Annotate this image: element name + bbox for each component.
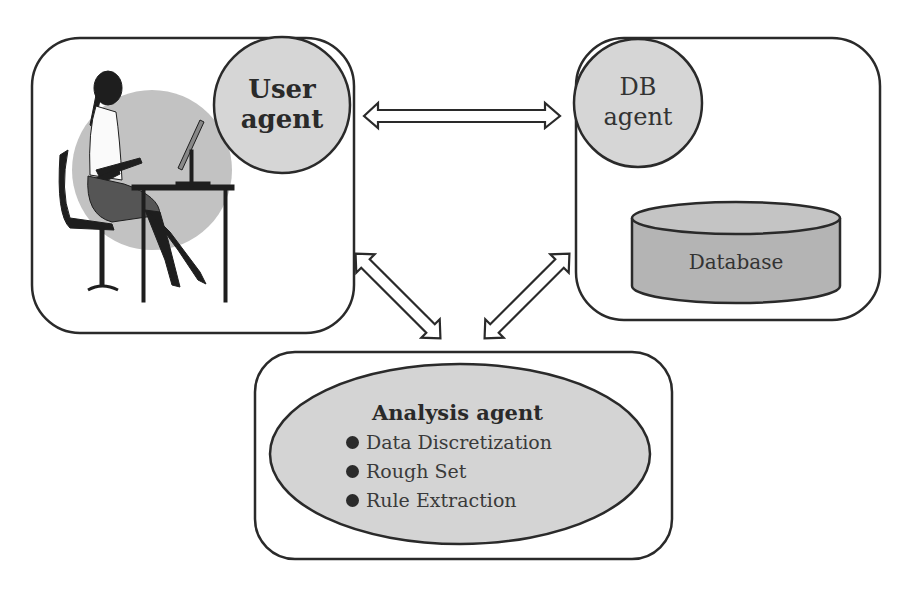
database-label: Database [636,250,836,274]
db-agent-label: DB agent [578,72,698,132]
list-item: Rough Set [346,457,552,486]
user-analysis-arrow [346,244,449,347]
list-item-text: Rough Set [366,457,466,486]
user-db-arrow [364,103,560,128]
analysis-feature-list: Data Discretization Rough Set Rule Extra… [346,428,552,515]
list-item-text: Rule Extraction [366,486,517,515]
user-agent-label-line1: User [222,74,342,104]
bullet-icon [346,494,359,507]
list-item: Data Discretization [346,428,552,457]
bullet-icon [346,436,359,449]
user-agent-label-line2: agent [222,104,342,134]
db-agent-label-line2: agent [578,102,698,132]
bullet-icon [346,465,359,478]
db-analysis-arrow [475,244,578,347]
list-item-text: Data Discretization [366,428,552,457]
analysis-agent-title: Analysis agent [346,400,592,425]
db-agent-label-line1: DB [578,72,698,102]
user-agent-label: User agent [222,74,342,134]
list-item: Rule Extraction [346,486,552,515]
